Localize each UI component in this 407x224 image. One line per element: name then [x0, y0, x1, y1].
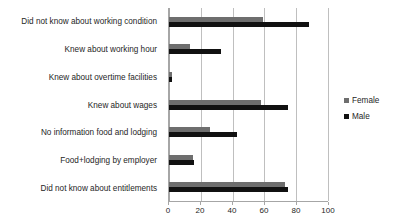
bar-male — [169, 160, 194, 165]
bar-male — [169, 49, 221, 54]
bar-series-group — [169, 8, 328, 201]
category-label: Knew about overtime facilities — [49, 73, 157, 82]
bar-male — [169, 132, 237, 137]
tick-label-80: 80 — [292, 206, 301, 215]
bar-row — [169, 146, 328, 174]
legend-label: Male — [352, 112, 370, 121]
bar-male — [169, 77, 172, 82]
tick-mark-60 — [264, 202, 265, 205]
bar-male — [169, 22, 309, 27]
chart-legend: FemaleMale — [344, 96, 404, 128]
bar-row — [169, 91, 328, 119]
category-label-cell: Knew about working hour — [0, 36, 162, 64]
legend-label: Female — [352, 96, 379, 105]
category-label: Did not know about entitlements — [40, 184, 157, 193]
value-axis: 020406080100 — [168, 202, 328, 220]
category-label-cell: Did not know about working condition — [0, 8, 162, 36]
category-label-cell: Food+lodging by employer — [0, 147, 162, 175]
tick-mark-0 — [168, 202, 169, 205]
gridline-100 — [328, 8, 329, 201]
category-label-cell: Did not know about entitlements — [0, 174, 162, 202]
category-label: Knew about working hour — [65, 45, 157, 54]
bar-row — [169, 36, 328, 64]
bar-male — [169, 187, 288, 192]
category-label: No information food and lodging — [41, 128, 157, 137]
tick-label-20: 20 — [196, 206, 205, 215]
legend-item-female[interactable]: Female — [344, 96, 404, 105]
legend-swatch-icon — [344, 98, 349, 103]
plot-area — [168, 8, 328, 202]
tick-mark-80 — [296, 202, 297, 205]
bar-row — [169, 118, 328, 146]
category-axis: Did not know about working conditionKnew… — [0, 8, 162, 202]
tick-mark-40 — [232, 202, 233, 205]
tick-label-60: 60 — [260, 206, 269, 215]
bar-row — [169, 8, 328, 36]
tick-mark-20 — [200, 202, 201, 205]
tick-label-40: 40 — [228, 206, 237, 215]
bar-chart: Did not know about working conditionKnew… — [0, 0, 407, 224]
category-label-cell: No information food and lodging — [0, 119, 162, 147]
category-label-cell: Knew about wages — [0, 91, 162, 119]
tick-label-100: 100 — [321, 206, 334, 215]
bar-male — [169, 105, 288, 110]
tick-mark-100 — [328, 202, 329, 205]
category-label-cell: Knew about overtime facilities — [0, 63, 162, 91]
legend-swatch-icon — [344, 114, 349, 119]
legend-item-male[interactable]: Male — [344, 112, 404, 121]
tick-label-0: 0 — [166, 206, 170, 215]
category-label: Knew about wages — [88, 101, 157, 110]
category-label: Food+lodging by employer — [60, 156, 157, 165]
bar-row — [169, 63, 328, 91]
bar-row — [169, 173, 328, 201]
category-label: Did not know about working condition — [21, 17, 157, 26]
